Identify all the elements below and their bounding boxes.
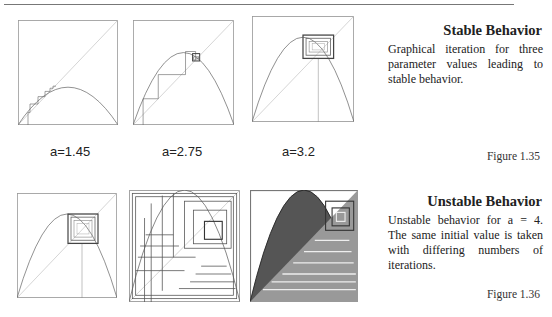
- figure-label-136: Figure 1.36: [487, 288, 540, 300]
- section-description-stable: Graphical iteration for three parameter …: [388, 42, 543, 87]
- figure-label-135: Figure 1.35: [487, 150, 540, 162]
- caption-a275: a=2.75: [162, 144, 202, 159]
- plot-a32: [252, 16, 354, 122]
- caption-a145: a=1.45: [50, 144, 90, 159]
- plot-a145: [18, 20, 118, 125]
- header-rule: [4, 4, 514, 5]
- plot-unstable-3: [250, 190, 358, 302]
- section-title-stable: Stable Behavior: [443, 22, 542, 39]
- section-title-unstable: Unstable Behavior: [427, 193, 542, 210]
- section-description-unstable: Unstable behavior for a = 4. The same in…: [388, 213, 543, 273]
- caption-a32: a=3.2: [282, 144, 315, 159]
- plot-a275: [133, 20, 234, 125]
- plot-unstable-2: [129, 190, 240, 302]
- plot-unstable-1: [17, 193, 117, 298]
